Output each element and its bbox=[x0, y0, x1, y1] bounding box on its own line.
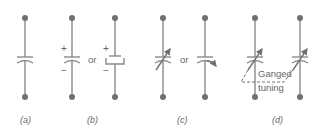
terminal-node-icon bbox=[252, 94, 258, 100]
caption-d: (d) bbox=[272, 115, 283, 125]
ganged-capacitor-right-symbol bbox=[292, 18, 308, 97]
variable-capacitor-symbol bbox=[155, 18, 171, 97]
or-label: or bbox=[180, 54, 188, 65]
terminal-node-icon bbox=[69, 94, 75, 100]
terminal-node-icon bbox=[112, 15, 118, 21]
terminal-node-icon bbox=[22, 94, 28, 100]
minus-sign: − bbox=[103, 65, 109, 76]
caption-b: (b) bbox=[87, 115, 98, 125]
terminal-node-icon bbox=[160, 94, 166, 100]
capacitor-symbols-diagram: + − or + − or bbox=[0, 0, 324, 135]
terminal-node-icon bbox=[297, 15, 303, 21]
minus-sign: − bbox=[61, 65, 67, 76]
polarized-capacitor-alt-symbol bbox=[106, 18, 124, 97]
terminal-node-icon bbox=[160, 15, 166, 21]
terminal-node-icon bbox=[252, 15, 258, 21]
terminal-node-icon bbox=[69, 15, 75, 21]
or-label: or bbox=[88, 54, 96, 65]
plus-sign: + bbox=[103, 43, 109, 54]
polarized-capacitor-symbol bbox=[64, 18, 80, 97]
fixed-capacitor-symbol bbox=[17, 18, 33, 97]
plus-sign: + bbox=[61, 43, 67, 54]
terminal-node-icon bbox=[22, 15, 28, 21]
terminal-node-icon bbox=[297, 94, 303, 100]
terminal-node-icon bbox=[112, 94, 118, 100]
terminal-node-icon bbox=[202, 94, 208, 100]
ganged-annotation-line1: Ganged bbox=[258, 68, 292, 79]
caption-a: (a) bbox=[20, 115, 31, 125]
trimmer-capacitor-symbol bbox=[197, 18, 216, 97]
terminal-node-icon bbox=[202, 15, 208, 21]
ganged-annotation-line2: tuning bbox=[258, 82, 284, 93]
caption-c: (c) bbox=[177, 115, 188, 125]
